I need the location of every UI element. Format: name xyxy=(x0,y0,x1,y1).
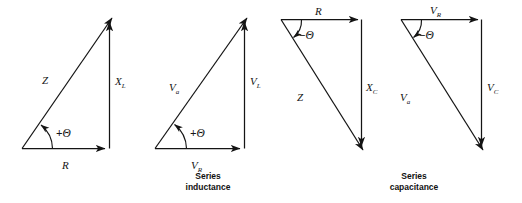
label-angle-theta: +Θ xyxy=(56,128,71,140)
label-horizontal-R: R xyxy=(62,160,69,171)
angle-symbol: Θ xyxy=(306,29,314,41)
diagram-impedance-triangle-capacitive xyxy=(281,20,363,151)
label-text: X xyxy=(115,75,122,87)
label-subscript: C xyxy=(494,88,499,96)
label-text: X xyxy=(366,81,373,93)
label-hypotenuse-Va: Va xyxy=(169,82,179,93)
label-hypotenuse-Z: Z xyxy=(42,75,48,86)
caption-line-1: Series xyxy=(178,171,238,182)
phasor-diagram-figure: Z XL R +Θ Va VL VR +Θ R Z XC −Θ VR Va VC xyxy=(0,0,522,203)
angle-arc-positive-theta xyxy=(41,125,53,149)
label-angle-theta: −Θ xyxy=(299,30,314,42)
vector-hypotenuse-Z xyxy=(281,20,363,151)
diagram-voltage-triangle-capacitive xyxy=(401,20,483,151)
label-text: V xyxy=(250,75,257,87)
label-subscript: C xyxy=(373,88,378,96)
label-subscript: a xyxy=(176,88,180,96)
label-subscript: L xyxy=(122,82,126,90)
label-text: R xyxy=(315,5,322,17)
label-text: V xyxy=(191,159,198,171)
label-subscript: a xyxy=(407,98,411,106)
label-text: Z xyxy=(297,91,303,103)
angle-arc-positive-theta xyxy=(175,125,187,149)
caption-series-capacitance: Series capacitance xyxy=(378,171,450,192)
angle-symbol: Θ xyxy=(426,29,434,41)
caption-line-2: inductance xyxy=(178,182,238,193)
label-text: V xyxy=(430,4,437,16)
label-text: V xyxy=(487,81,494,93)
label-text: Z xyxy=(42,74,48,86)
label-angle-theta: +Θ xyxy=(190,128,205,140)
label-horizontal-R: R xyxy=(315,6,322,17)
angle-symbol: Θ xyxy=(63,127,71,139)
caption-line-1: Series xyxy=(378,171,450,182)
label-subscript: L xyxy=(257,82,261,90)
caption-series-inductance: Series inductance xyxy=(178,171,238,192)
label-subscript: R xyxy=(437,11,441,19)
label-vertical-VL: VL xyxy=(250,76,261,87)
label-vertical-XC: XC xyxy=(366,82,377,93)
label-hypotenuse-Va: Va xyxy=(400,92,410,103)
label-horizontal-VR: VR xyxy=(430,5,441,16)
angle-symbol: Θ xyxy=(197,127,205,139)
label-angle-theta: −Θ xyxy=(419,30,434,42)
label-text: R xyxy=(62,159,69,171)
label-hypotenuse-Z: Z xyxy=(297,92,303,103)
caption-line-2: capacitance xyxy=(378,182,450,193)
vector-hypotenuse-Va xyxy=(401,20,483,151)
label-text: V xyxy=(400,91,407,103)
label-vertical-VC: VC xyxy=(487,82,498,93)
label-horizontal-VR: VR xyxy=(191,160,202,171)
label-text: V xyxy=(169,81,176,93)
label-vertical-XL: XL xyxy=(115,76,126,87)
